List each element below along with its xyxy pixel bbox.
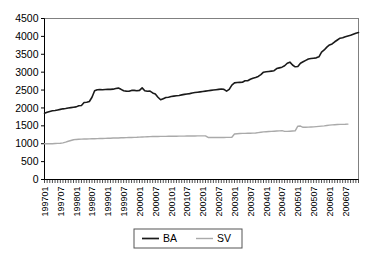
legend-label-sv: SV (217, 232, 231, 244)
y-axis-tick-label: 1000 (15, 137, 39, 149)
x-axis-tick-label: 199707 (56, 187, 66, 217)
y-axis-tick-label: 2000 (15, 102, 39, 114)
x-axis-tick-label: 200101 (167, 187, 177, 217)
x-axis-tick-label: 200501 (293, 187, 303, 217)
x-axis-tick-label: 200407 (277, 187, 287, 217)
x-axis-tick-label: 200201 (198, 187, 208, 217)
x-axis-tick-label: 199801 (72, 187, 82, 217)
chart-legend: BASV (134, 229, 242, 248)
x-axis-ticks (45, 180, 359, 184)
y-axis-tick-label: 4000 (15, 30, 39, 42)
y-axis-tick-label: 500 (21, 155, 39, 167)
legend-label-ba: BA (163, 232, 177, 244)
x-axis-tick-label: 200007 (151, 187, 161, 217)
x-axis-tick-label: 200601 (325, 187, 335, 217)
x-axis-tick-label: 200507 (309, 187, 319, 217)
line-chart: 050010001500200025003000350040004500 199… (0, 0, 372, 258)
y-axis-tick-label: 3000 (15, 66, 39, 78)
y-axis-tick-label: 0 (33, 173, 39, 185)
x-axis-tick-label: 200107 (182, 187, 192, 217)
y-axis-tick-label: 1500 (15, 119, 39, 131)
chart-container: 050010001500200025003000350040004500 199… (0, 0, 372, 258)
y-axis-tick-label: 4500 (15, 12, 39, 24)
x-axis-tick-label: 200307 (246, 187, 256, 217)
x-axis-labels: 1997011997071998011998071999011999072000… (40, 187, 351, 217)
x-axis-tick-label: 199907 (119, 187, 129, 217)
x-axis-tick-label: 199901 (103, 187, 113, 217)
y-axis-labels: 050010001500200025003000350040004500 (15, 12, 39, 185)
x-axis-tick-label: 199701 (40, 187, 50, 217)
x-axis-tick-label: 200301 (230, 187, 240, 217)
x-axis-tick-label: 200001 (135, 187, 145, 217)
y-axis-tick-label: 3500 (15, 48, 39, 60)
x-axis-tick-label: 200207 (214, 187, 224, 217)
x-axis-tick-label: 200401 (262, 187, 272, 217)
y-axis-tick-label: 2500 (15, 84, 39, 96)
x-axis-tick-label: 200607 (341, 187, 351, 217)
x-axis-tick-label: 199807 (87, 187, 97, 217)
